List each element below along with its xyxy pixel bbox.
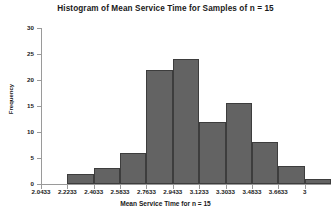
x-tick-label: 2.7633 (137, 188, 156, 195)
histogram-bar (146, 70, 172, 184)
y-axis-label: Frequency (8, 69, 14, 129)
x-tick-label: 2.2233 (58, 188, 77, 195)
x-tick-label: 2.9433 (163, 188, 182, 195)
histogram-bar (278, 166, 304, 184)
y-tick-label: 5 (31, 154, 34, 161)
histogram-bar (120, 153, 146, 184)
x-tick-label: 3.3033 (216, 188, 235, 195)
y-tick-label: 10 (27, 128, 34, 135)
x-tick-label: 3.1233 (190, 188, 209, 195)
x-axis-label: Mean Service Time for n = 15 (0, 200, 331, 207)
y-tick: 15 (37, 106, 42, 107)
chart-title: Histogram of Mean Service Time for Sampl… (0, 4, 331, 13)
histogram-bar (199, 122, 225, 184)
y-tick-label: 25 (27, 50, 34, 57)
x-axis-line (41, 184, 331, 185)
histogram-bar (305, 179, 331, 184)
y-tick-label: 20 (27, 76, 34, 83)
y-tick-label: 30 (27, 24, 34, 31)
histogram-bar (226, 103, 252, 184)
histogram-bar (94, 168, 120, 184)
y-tick: 20 (37, 80, 42, 81)
plot-area: 051015202530 2.04332.22332.40332.58332.7… (41, 28, 331, 185)
y-tick: 30 (37, 28, 42, 29)
y-tick: 5 (37, 158, 42, 159)
x-tick-label: 3.4833 (242, 188, 261, 195)
histogram-chart: Histogram of Mean Service Time for Sampl… (0, 0, 331, 214)
x-tick-label: 2.0433 (32, 188, 51, 195)
y-tick: 10 (37, 132, 42, 133)
y-tick: 25 (37, 54, 42, 55)
x-tick-label: 2.4033 (84, 188, 103, 195)
histogram-bar (252, 142, 278, 184)
y-tick-label: 15 (27, 102, 34, 109)
x-tick-label: 3.6633 (269, 188, 288, 195)
histogram-bar (173, 59, 199, 184)
histogram-bar (67, 174, 93, 184)
x-tick-label: 3 (303, 188, 306, 195)
x-tick-label: 2.5833 (111, 188, 130, 195)
y-tick-label: 0 (31, 180, 34, 187)
